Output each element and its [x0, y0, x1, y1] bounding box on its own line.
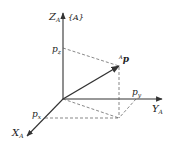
origin-to-xy-dashed	[63, 99, 119, 118]
position-vector	[63, 66, 119, 99]
coordinate-frame-diagram: ZA {A} pz Ap py YA px XA	[0, 0, 172, 152]
px-label: px	[32, 109, 42, 120]
py-to-xy-dashed	[119, 99, 136, 118]
y-axis-label: YA	[152, 103, 164, 115]
pz-to-p-dashed	[63, 48, 119, 66]
py-label: py	[132, 87, 142, 99]
z-axis-label: ZA	[48, 11, 61, 23]
vector-label: Ap	[118, 54, 130, 64]
frame-label: {A}	[68, 13, 84, 22]
pz-label: pz	[52, 44, 62, 55]
x-axis-label: XA	[11, 127, 24, 139]
